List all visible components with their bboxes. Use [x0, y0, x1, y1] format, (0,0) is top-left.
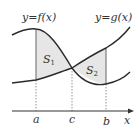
- tick-label-c: c: [69, 113, 75, 126]
- curve-f-label: y=f(x): [21, 11, 56, 24]
- tick-label-a: a: [33, 113, 40, 126]
- curve-f: [12, 29, 130, 85]
- region-s1-fill: [36, 29, 72, 80]
- x-axis-arrow-icon: [128, 109, 134, 114]
- axis-label-x: x: [124, 114, 131, 127]
- tick-label-b: b: [103, 115, 110, 128]
- diagram-svg: y=f(x) y=g(x) S1 S2 a c b x: [0, 0, 139, 131]
- curve-g: [12, 27, 130, 83]
- area-between-curves-diagram: y=f(x) y=g(x) S1 S2 a c b x: [0, 0, 139, 131]
- curve-g-label: y=g(x): [94, 11, 132, 24]
